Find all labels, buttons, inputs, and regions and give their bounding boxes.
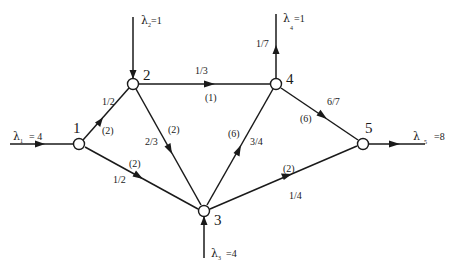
edge-2-4	[139, 81, 270, 88]
edge-4-5-capacity: (6)	[300, 113, 312, 125]
lambda-3-label: λ 3 =4	[211, 247, 237, 261]
edge-1-3	[85, 147, 198, 209]
edge-2-3-capacity: (2)	[168, 124, 180, 136]
edge-1-2-probability: 1/2	[102, 96, 115, 107]
node-5	[358, 139, 369, 150]
edge-4-out-probability: 1/7	[256, 38, 269, 49]
node-label-2: 2	[143, 67, 151, 83]
lambda-symbol: λ	[283, 12, 290, 25]
lambda-subscript: 1	[20, 138, 23, 144]
arrow-icon	[389, 141, 400, 148]
edge-1-3-capacity: (2)	[129, 158, 141, 170]
edge-1-3-probability: 1/2	[113, 174, 126, 185]
arrow-icon	[130, 70, 137, 79]
lambda-symbol: λ	[13, 130, 20, 143]
external-outflow-node-4	[273, 14, 280, 78]
edge-2-4-probability: 1/3	[195, 65, 208, 76]
edge-3-5-probability: 1/4	[289, 190, 302, 201]
lambda-2-label: λ 2 =1	[141, 14, 162, 28]
node-2	[128, 79, 139, 90]
lambda-4-label: λ 4 =1	[283, 12, 305, 31]
lambda-symbol: λ	[141, 14, 148, 27]
edge-4-5-probability: 6/7	[327, 96, 340, 107]
arrow-icon	[281, 174, 292, 181]
node-label-3: 3	[214, 212, 222, 228]
node-label-1: 1	[73, 120, 81, 136]
lambda-value: = 4	[29, 131, 42, 142]
lambda-value: =1	[151, 15, 162, 26]
arrow-icon	[201, 216, 208, 225]
edge-2-3-probability: 2/3	[145, 136, 158, 147]
arrow-icon	[133, 171, 144, 180]
node-label-5: 5	[365, 120, 373, 136]
external-inflow-node-3	[201, 216, 208, 258]
lambda-5-label: λ 5 =8	[413, 130, 445, 145]
edge-3-4	[207, 89, 273, 205]
arrow-icon	[234, 145, 242, 157]
edge-3-4-probability: 3/4	[250, 136, 263, 147]
lambda-value: =1	[294, 13, 305, 24]
node-1	[74, 139, 85, 150]
arrow-icon	[317, 110, 328, 119]
edge-3-5-capacity: (2)	[283, 163, 295, 175]
arrow-icon	[165, 143, 173, 154]
lambda-subscript: 5	[424, 139, 427, 145]
arrow-icon	[273, 45, 280, 54]
queueing-network-diagram: 1 2 3 4 5 1/2 (2) 1/2 (2) 1/3 (1) 2/3 (2…	[0, 0, 457, 273]
arrow-icon	[204, 81, 215, 88]
edge-4-5	[281, 88, 358, 140]
edge-3-5	[210, 146, 357, 209]
lambda-symbol: λ	[211, 247, 218, 260]
edge-2-3	[136, 89, 201, 205]
lambda-symbol: λ	[413, 130, 420, 143]
lambda-value: =4	[226, 248, 237, 259]
node-4	[271, 79, 282, 90]
node-label-4: 4	[286, 71, 294, 87]
node-3	[199, 206, 210, 217]
lambda-subscript: 3	[218, 255, 221, 261]
edge-1-2-capacity: (2)	[102, 125, 114, 137]
edge-2-4-capacity: (1)	[205, 92, 217, 104]
edge-3-4-capacity: (6)	[228, 128, 240, 140]
lambda-subscript: 4	[290, 25, 293, 31]
lambda-1-label: λ 1 = 4	[13, 130, 42, 144]
lambda-value: =8	[434, 131, 445, 142]
external-inflow-node-2	[130, 17, 137, 79]
